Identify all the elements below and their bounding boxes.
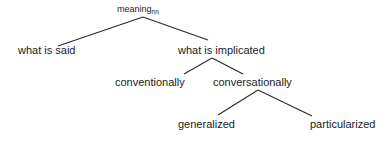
edge-implicated-conversationally xyxy=(212,58,243,74)
node-generalized: generalized xyxy=(178,118,235,130)
node-what-is-implicated: what is implicated xyxy=(178,44,265,56)
edge-conversationally-particularized xyxy=(258,90,312,116)
node-particularized: particularized xyxy=(310,118,375,130)
edge-implicated-conventionally xyxy=(184,58,212,74)
node-label: meaning xyxy=(117,4,152,14)
edge-root-said xyxy=(58,17,143,46)
node-what-is-said: what is said xyxy=(18,44,75,56)
node-subscript: nn xyxy=(152,8,159,15)
node-meaning-nn: meaningnn xyxy=(117,3,159,15)
edge-root-implicated xyxy=(143,17,208,40)
edge-conversationally-generalized xyxy=(218,90,258,115)
node-conversationally: conversationally xyxy=(213,76,292,88)
node-conventionally: conventionally xyxy=(115,76,185,88)
